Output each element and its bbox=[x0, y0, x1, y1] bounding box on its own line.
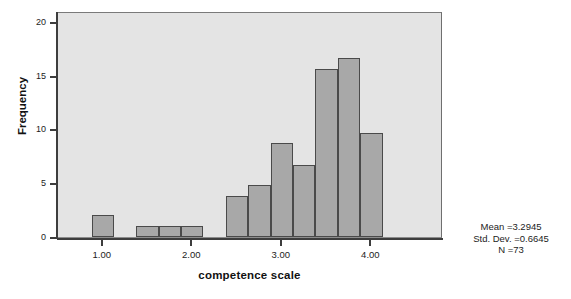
histogram-bar bbox=[338, 58, 360, 237]
histogram-bar bbox=[181, 226, 203, 237]
histogram-figure: 05101520 1.002.003.004.00 Frequency comp… bbox=[0, 0, 571, 299]
x-tick-mark bbox=[369, 240, 371, 246]
y-tick-mark bbox=[50, 76, 56, 78]
stat-std-dev: Std. Dev. =0.6645 bbox=[455, 233, 567, 245]
histogram-bar bbox=[92, 215, 114, 237]
y-tick-label: 0 bbox=[16, 233, 46, 242]
histogram-bar bbox=[271, 143, 293, 237]
histogram-bar bbox=[226, 196, 248, 237]
x-tick-mark bbox=[280, 240, 282, 246]
x-tick-label: 2.00 bbox=[171, 250, 211, 260]
stat-mean: Mean =3.2945 bbox=[455, 221, 567, 233]
x-tick-mark bbox=[101, 240, 103, 246]
x-tick-mark bbox=[190, 240, 192, 246]
x-axis-line bbox=[57, 238, 443, 240]
y-tick-label: 20 bbox=[16, 18, 46, 27]
y-axis-line bbox=[56, 12, 58, 239]
bars-container bbox=[58, 13, 441, 237]
histogram-bar bbox=[248, 185, 270, 237]
histogram-bar bbox=[360, 133, 382, 237]
y-tick-mark bbox=[50, 183, 56, 185]
y-tick-label: 5 bbox=[16, 179, 46, 188]
y-tick-mark bbox=[50, 22, 56, 24]
x-tick-label: 4.00 bbox=[350, 250, 390, 260]
x-tick-label: 1.00 bbox=[82, 250, 122, 260]
y-tick-mark bbox=[50, 129, 56, 131]
x-tick-label: 3.00 bbox=[261, 250, 301, 260]
y-axis-title: Frequency bbox=[16, 56, 28, 156]
plot-area bbox=[57, 12, 442, 238]
statistics-annotation: Mean =3.2945 Std. Dev. =0.6645 N =73 bbox=[455, 221, 567, 256]
histogram-bar bbox=[293, 165, 315, 237]
histogram-bar bbox=[136, 226, 158, 237]
x-axis-title: competence scale bbox=[57, 269, 442, 281]
histogram-bar bbox=[315, 69, 337, 237]
histogram-bar bbox=[159, 226, 181, 237]
stat-n: N =73 bbox=[455, 244, 567, 256]
y-tick-mark bbox=[50, 237, 56, 239]
